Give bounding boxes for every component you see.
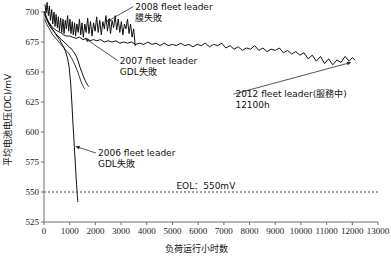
y-tick-label: 700: [26, 7, 40, 17]
x-tick-label: 6000: [189, 226, 208, 236]
y-tick-label: 675: [26, 37, 40, 47]
x-tick-label: 10000: [290, 226, 313, 236]
voltage-degradation-line-chart: 0100020003000400050006000700080009000100…: [0, 0, 391, 258]
x-tick-label: 1000: [61, 226, 80, 236]
y-tick-label: 575: [26, 157, 40, 167]
y-tick-label: 600: [26, 127, 40, 137]
anno-2012-line2: 12100h: [235, 100, 269, 110]
eol-threshold-label: EOL：550mV: [176, 181, 236, 191]
x-tick-label: 13000: [367, 226, 390, 236]
x-tick-label: 8000: [241, 226, 260, 236]
y-tick-label: 625: [26, 97, 40, 107]
anno-2008-line2: 膜失敗: [135, 12, 162, 23]
x-tick-label: 0: [42, 226, 47, 236]
x-tick-label: 4000: [138, 226, 157, 236]
x-axis-tick-labels: 0100020003000400050006000700080009000100…: [42, 226, 390, 236]
x-tick-label: 2000: [86, 226, 105, 236]
x-tick-label: 12000: [341, 226, 364, 236]
y-tick-label: 525: [26, 217, 40, 227]
anno-2007-line2: GDL失敗: [120, 66, 157, 77]
anno-2012-line1: 2012 fleet leader(服務中): [235, 88, 346, 99]
anno-2006-line1: 2006 fleet leader: [98, 148, 176, 158]
x-tick-label: 7000: [215, 226, 234, 236]
chart-figure: 0100020003000400050006000700080009000100…: [0, 0, 391, 258]
x-tick-label: 5000: [163, 226, 182, 236]
x-axis-title: 负荷运行小时数: [165, 243, 228, 254]
anno-2006-line2: GDL失敗: [98, 158, 135, 169]
y-axis-title: 平均电池电压(DC)/mV: [2, 73, 13, 166]
anno-2008-line1: 2008 fleet leader: [135, 2, 213, 12]
anno-2007-line1: 2007 fleet leader: [120, 56, 198, 66]
y-tick-label: 550: [26, 187, 40, 197]
x-tick-label: 3000: [112, 226, 131, 236]
x-tick-label: 11000: [316, 226, 339, 236]
y-tick-label: 650: [26, 67, 40, 77]
x-tick-label: 9000: [266, 226, 285, 236]
